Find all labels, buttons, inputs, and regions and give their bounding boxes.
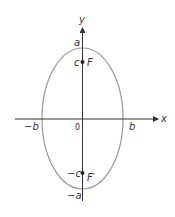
vertex-left-label: −b: [24, 121, 39, 132]
vertex-right-label: b: [129, 121, 135, 132]
focus-lower-name-label: F′: [87, 172, 96, 183]
focus-lower-coord-label: −c: [67, 168, 81, 179]
focus-upper-name-label: F: [87, 57, 93, 68]
focus-upper-coord-label: c: [74, 57, 80, 68]
vertex-top-label: a: [74, 37, 80, 48]
y-axis-label: y: [78, 14, 86, 25]
vertex-bottom-label: −a: [67, 190, 82, 201]
ellipse-diagram: y x 0 a −a b −b c F −c F′: [0, 0, 175, 217]
origin-label: 0: [75, 123, 80, 132]
focus-upper-point: [81, 60, 85, 64]
x-axis-label: x: [160, 113, 167, 124]
focus-lower-point: [81, 171, 85, 175]
